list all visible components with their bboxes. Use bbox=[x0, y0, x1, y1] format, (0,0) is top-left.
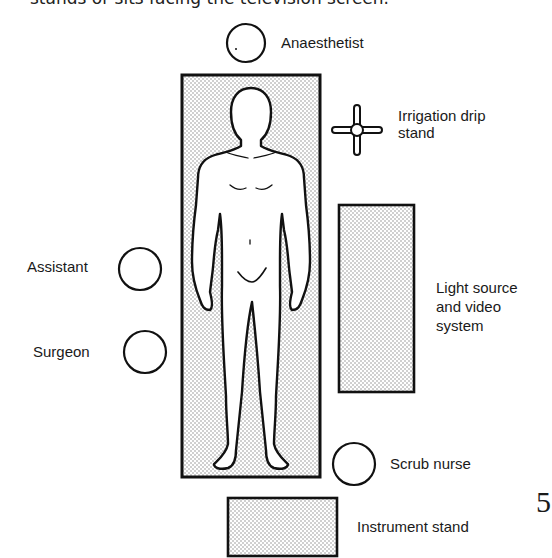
irrigation-drip-stand-label-line2: stand bbox=[398, 124, 435, 142]
irrigation-drip-stand-label-line1: Irrigation drip bbox=[398, 107, 486, 125]
anaesthetist-position-icon bbox=[227, 24, 265, 62]
light-source-label-line3: system bbox=[436, 317, 484, 335]
assistant-label: Assistant bbox=[27, 258, 88, 276]
scrub-nurse-position-icon bbox=[333, 443, 375, 485]
scrub-nurse-label: Scrub nurse bbox=[390, 455, 471, 473]
surgeon-position-icon bbox=[124, 331, 166, 373]
light-source-label-line1: Light source bbox=[436, 279, 518, 297]
assistant-position-icon bbox=[119, 248, 161, 290]
instrument-stand bbox=[228, 498, 337, 556]
light-source-label-line2: and video bbox=[436, 298, 501, 316]
light-source-video-system bbox=[339, 205, 414, 392]
anaesthetist-label: Anaesthetist bbox=[281, 34, 364, 52]
instrument-stand-label: Instrument stand bbox=[357, 518, 469, 536]
surgeon-label: Surgeon bbox=[33, 343, 90, 361]
irrigation-drip-stand-icon bbox=[332, 105, 382, 155]
page-number: 5 bbox=[536, 485, 551, 519]
